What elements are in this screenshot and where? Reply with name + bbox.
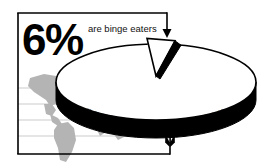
stat-value: 6% [22,15,83,64]
stat-caption: are binge eaters [88,23,157,34]
infographic-figure: GENERAL POPULATION 6% are binge eaters [0,0,266,168]
headline-text-layer: 6% are binge eaters [0,0,266,168]
